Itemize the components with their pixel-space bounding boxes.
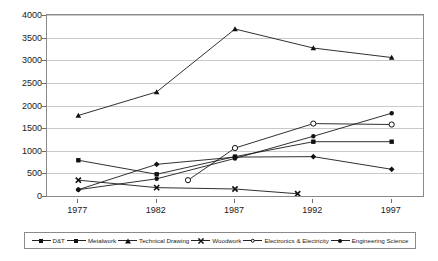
data-point-marker [185, 178, 190, 183]
y-axis-tick-label: 3500 [0, 33, 42, 43]
series-line [188, 124, 392, 181]
series-electronics-electricity [185, 121, 394, 183]
y-axis-tick-label: 1500 [0, 123, 42, 133]
legend-label: Technical Drawing [139, 237, 189, 245]
series-line [78, 113, 391, 189]
legend-item[interactable]: Woodwork [191, 237, 241, 245]
x-axis-tick-label: 1997 [381, 205, 401, 215]
data-point-marker [389, 122, 394, 127]
series-line [78, 29, 391, 115]
legend-label: Woodwork [212, 237, 241, 245]
y-axis-tick-label: 0 [0, 191, 42, 201]
line-chart: 05001000150020002500300035004000 1977198… [0, 0, 438, 261]
y-axis-tick-label: 3000 [0, 55, 42, 65]
cross-marker-icon [191, 237, 210, 245]
x-axis-tick-label: 1977 [67, 205, 87, 215]
data-point-marker [311, 140, 315, 144]
square-marker-icon [67, 237, 86, 245]
y-axis-tick-label: 4000 [0, 10, 42, 20]
y-axis-tick-label: 2000 [0, 101, 42, 111]
x-axis-tick-mark [77, 199, 78, 203]
legend-item[interactable]: Metalwork [67, 237, 116, 245]
dot-marker-icon [331, 237, 350, 245]
chart-legend: D&TMetalworkTechnical DrawingWoodworkEle… [24, 232, 416, 249]
x-axis-tick-label: 1982 [146, 205, 166, 215]
diamond-marker-icon [32, 237, 51, 245]
series-layer [47, 15, 423, 196]
y-axis-tick-label: 500 [0, 168, 42, 178]
plot-area [46, 14, 424, 197]
data-point-marker [154, 172, 158, 176]
data-point-marker [154, 177, 158, 181]
circle-marker-icon [243, 237, 262, 245]
legend-item[interactable]: D&T [32, 237, 65, 245]
x-axis: 19771982198719921997 [46, 199, 424, 219]
data-point-marker [154, 161, 160, 167]
series-engineering-science [76, 111, 394, 192]
x-axis-tick-label: 1987 [224, 205, 244, 215]
data-point-marker [233, 156, 237, 160]
legend-label: Engineering Science [352, 237, 409, 245]
data-point-marker [389, 111, 393, 115]
data-point-marker [76, 158, 80, 162]
data-point-marker [76, 187, 80, 191]
data-point-marker [232, 145, 237, 150]
y-axis-tick-label: 2500 [0, 78, 42, 88]
x-axis-tick-mark [312, 199, 313, 203]
legend-label: Electronics & Electricity [264, 237, 328, 245]
legend-label: D&T [53, 237, 65, 245]
x-axis-tick-mark [391, 199, 392, 203]
data-point-marker [311, 121, 316, 126]
data-point-marker [311, 134, 315, 138]
legend-item[interactable]: Engineering Science [331, 237, 409, 245]
legend-item[interactable]: Technical Drawing [118, 237, 189, 245]
data-point-marker [232, 26, 238, 31]
data-point-marker [389, 166, 395, 172]
series-technical-drawing [76, 26, 395, 117]
data-point-marker [311, 154, 317, 160]
x-axis-tick-mark [234, 199, 235, 203]
data-point-marker [389, 140, 393, 144]
legend-item[interactable]: Electronics & Electricity [243, 237, 328, 245]
y-axis-tick-label: 1000 [0, 146, 42, 156]
x-axis-tick-mark [156, 199, 157, 203]
triangle-marker-icon [118, 237, 137, 245]
x-axis-tick-label: 1992 [302, 205, 322, 215]
legend-label: Metalwork [88, 237, 116, 245]
